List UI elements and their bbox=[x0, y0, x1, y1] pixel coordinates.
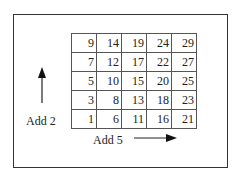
add-5-label: Add 5 bbox=[93, 133, 123, 148]
add-2-label: Add 2 bbox=[26, 114, 56, 129]
up-arrow-icon bbox=[38, 67, 46, 103]
right-arrow-icon bbox=[134, 134, 177, 142]
